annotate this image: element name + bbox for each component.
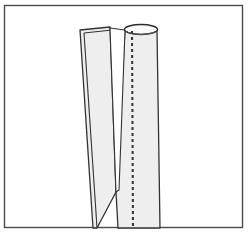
split-tube-illustration [0, 0, 249, 240]
figure-container: Split tube diagram Line drawing of a cyl… [0, 0, 249, 240]
